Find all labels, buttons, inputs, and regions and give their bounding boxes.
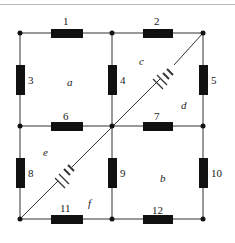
resistor-label-1: 1 (63, 16, 69, 27)
resistor-9 (108, 158, 117, 188)
resistor-label-8: 8 (28, 168, 34, 179)
resistor-6 (51, 122, 83, 131)
resistor-2 (143, 29, 173, 38)
resistor-label-11: 11 (60, 203, 71, 214)
resistor-3 (16, 65, 25, 95)
resistor-label-10: 10 (211, 168, 222, 179)
resistor-12 (143, 215, 173, 224)
resistor-label-6: 6 (63, 111, 69, 122)
resistor-label-9: 9 (120, 168, 126, 179)
circuit-diagram (0, 0, 235, 243)
resistor-label-2: 2 (154, 16, 160, 27)
resistor-label-7: 7 (154, 111, 160, 122)
resistor-11 (51, 215, 83, 224)
loop-label-b: b (160, 173, 166, 184)
resistor-7 (143, 122, 173, 131)
resistor-label-12: 12 (152, 205, 163, 216)
loop-label-c: c (139, 56, 144, 67)
resistor-label-4: 4 (120, 75, 126, 86)
loop-label-d: d (181, 100, 187, 111)
resistor-1 (51, 29, 83, 38)
loop-label-f: f (88, 198, 91, 209)
resistor-label-3: 3 (28, 75, 34, 86)
resistor-4 (108, 65, 117, 95)
resistor-10 (199, 158, 208, 188)
resistor-5 (199, 65, 208, 95)
resistor-label-5: 5 (211, 75, 217, 86)
battery-upper-icon (153, 69, 173, 89)
resistor-8 (16, 158, 25, 188)
loop-label-e: e (43, 147, 48, 158)
loop-label-a: a (67, 77, 73, 88)
battery-lower-icon (55, 165, 74, 188)
